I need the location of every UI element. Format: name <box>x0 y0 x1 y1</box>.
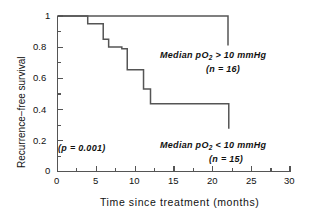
annotation-lower-n: (n = 15) <box>209 154 243 164</box>
plot-canvas <box>0 0 309 224</box>
y-ticklabel-0.6: 0.6 <box>33 72 46 83</box>
annotation-lower-group: Median pO2 < 10 mmHg <box>160 140 266 150</box>
y-axis-label: Recurrence−free survival <box>16 57 27 168</box>
x-ticklabel-30: 30 <box>284 175 295 186</box>
annotation-pvalue: (p = 0.001) <box>58 143 106 153</box>
annotation-lower-group-prefix: Median pO <box>160 140 209 150</box>
x-ticklabel-10: 10 <box>129 175 140 186</box>
x-major-ticks <box>58 166 291 172</box>
y-ticklabel-0: 0 <box>45 165 50 176</box>
annotation-lower-group-suffix: < 10 mmHg <box>213 140 267 150</box>
annotation-lower-group-subscript: 2 <box>209 144 213 151</box>
annotation-upper-group-prefix: Median pO <box>160 50 209 60</box>
survival-curve-low-po2 <box>58 16 229 129</box>
annotation-upper-group-subscript: 2 <box>209 54 213 61</box>
x-ticklabel-5: 5 <box>93 175 98 186</box>
y-ticklabel-1: 1 <box>45 10 50 21</box>
annotation-upper-group: Median pO2 > 10 mmHg <box>160 50 266 60</box>
x-ticklabel-15: 15 <box>168 175 179 186</box>
x-ticklabel-25: 25 <box>246 175 257 186</box>
x-ticklabel-20: 20 <box>207 175 218 186</box>
survival-curves <box>58 16 229 129</box>
kaplan-meier-figure: 1 0.8 0.6 0.4 0.2 0 0 5 10 15 20 25 30 R… <box>0 0 309 224</box>
x-axis-label: Time since treatment (months) <box>100 196 259 208</box>
survival-curve-high-po2 <box>58 16 229 46</box>
y-ticklabel-0.8: 0.8 <box>33 41 46 52</box>
annotation-upper-group-suffix: > 10 mmHg <box>213 50 267 60</box>
annotation-upper-n: (n = 16) <box>206 64 240 74</box>
y-ticklabel-0.4: 0.4 <box>33 104 46 115</box>
y-ticklabel-0.2: 0.2 <box>33 135 46 146</box>
x-ticklabel-0: 0 <box>54 175 59 186</box>
